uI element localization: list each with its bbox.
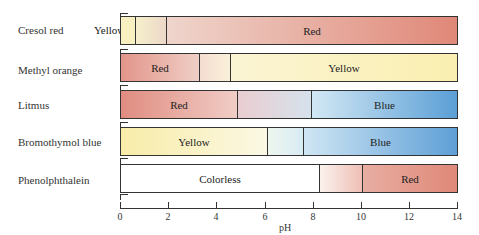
x-tick bbox=[457, 202, 458, 209]
segment-label: Yellow bbox=[178, 136, 209, 148]
row-label-cresol-red: Cresol red bbox=[18, 24, 64, 36]
bar-bromothymol-blue: Yellow Blue bbox=[120, 127, 458, 156]
bar-litmus: Red Blue bbox=[120, 90, 458, 119]
segment-label: Red bbox=[401, 173, 419, 185]
bar-cresol-red: Red bbox=[120, 16, 458, 45]
x-tick bbox=[409, 202, 410, 209]
segment-label: Blue bbox=[374, 99, 395, 111]
x-tick-label: 2 bbox=[166, 211, 171, 222]
segment-red: Red bbox=[166, 17, 457, 44]
segment-red: Red bbox=[121, 54, 199, 81]
segment-label: Red bbox=[170, 99, 188, 111]
x-tick-label: 8 bbox=[311, 211, 316, 222]
x-tick-label: 10 bbox=[356, 211, 366, 222]
segment-blue: Blue bbox=[303, 128, 457, 155]
x-tick bbox=[120, 202, 121, 209]
x-tick bbox=[313, 202, 314, 209]
segment-red: Red bbox=[362, 165, 457, 192]
segment-transition bbox=[237, 91, 311, 118]
segment-transition bbox=[319, 165, 362, 192]
bracket-mark bbox=[120, 194, 128, 200]
x-axis-label: pH bbox=[279, 222, 291, 233]
x-tick bbox=[361, 202, 362, 209]
segment-red: Red bbox=[121, 91, 237, 118]
segment-yellow bbox=[121, 17, 135, 44]
x-axis bbox=[120, 208, 458, 209]
x-tick-label: 4 bbox=[214, 211, 219, 222]
segment-transition bbox=[199, 54, 230, 81]
x-tick bbox=[265, 202, 266, 209]
segment-colorless: Colorless bbox=[121, 165, 319, 192]
x-tick-label: 12 bbox=[404, 211, 414, 222]
segment-label: Red bbox=[303, 25, 321, 37]
segment-label: Colorless bbox=[199, 173, 241, 185]
x-tick-label: 0 bbox=[118, 211, 123, 222]
segment-yellow: Yellow bbox=[121, 128, 267, 155]
x-tick bbox=[168, 202, 169, 209]
segment-transition bbox=[135, 17, 166, 44]
row-label-litmus: Litmus bbox=[18, 99, 49, 111]
x-tick bbox=[216, 202, 217, 209]
row-label-phenolphthalein: Phenolphthalein bbox=[18, 174, 90, 186]
bar-methyl-orange: Red Yellow bbox=[120, 53, 458, 82]
segment-transition bbox=[267, 128, 303, 155]
x-tick-label: 6 bbox=[263, 211, 268, 222]
segment-blue: Blue bbox=[311, 91, 457, 118]
segment-label: Yellow bbox=[328, 62, 359, 74]
segment-label: Red bbox=[151, 62, 169, 74]
x-tick-label: 14 bbox=[452, 211, 462, 222]
row-label-bromothymol-blue: Bromothymol blue bbox=[18, 136, 101, 148]
row-label-methyl-orange: Methyl orange bbox=[18, 64, 82, 76]
segment-label: Blue bbox=[370, 136, 391, 148]
segment-yellow: Yellow bbox=[230, 54, 457, 81]
bar-phenolphthalein: Colorless Red bbox=[120, 164, 458, 193]
